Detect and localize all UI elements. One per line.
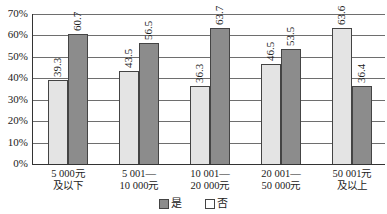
legend-item-no: 否 (205, 197, 228, 210)
bar-no (48, 80, 68, 165)
y-tick-label: 70% (0, 8, 28, 19)
x-category-label: 5 000元及以下 (33, 168, 103, 192)
y-tick-label: 0% (0, 158, 28, 169)
x-category-label: 5 001—10 000元 (104, 168, 174, 192)
bar-yes (352, 86, 372, 165)
y-tick-label: 40% (0, 72, 28, 83)
data-label: 39.3 (52, 58, 63, 77)
bar-yes (68, 34, 88, 165)
bar-no (119, 71, 139, 165)
data-label: 63.6 (336, 5, 347, 24)
data-label: 60.7 (72, 12, 83, 31)
data-label: 53.5 (285, 27, 296, 46)
legend-label-yes: 是 (171, 197, 182, 210)
x-axis-line (32, 164, 385, 165)
bar-no (332, 28, 352, 165)
data-label: 36.3 (194, 64, 205, 83)
data-label: 46.5 (265, 42, 276, 61)
legend-item-yes: 是 (159, 197, 182, 210)
bar-chart: 0%10%20%30%40%50%60%70% 39.343.536.346.5… (0, 0, 387, 214)
legend: 是 否 (0, 197, 387, 212)
y-tick-label: 50% (0, 51, 28, 62)
data-label: 36.4 (356, 64, 367, 83)
bar-no (190, 86, 210, 165)
y-axis-line (32, 14, 33, 165)
y-tick-label: 20% (0, 115, 28, 126)
legend-swatch-yes-icon (159, 199, 169, 209)
legend-swatch-no-icon (205, 199, 215, 209)
bar-yes (281, 49, 301, 165)
y-tick-label: 10% (0, 137, 28, 148)
gridline (32, 14, 385, 15)
data-label: 43.5 (123, 49, 134, 68)
x-category-label: 10 001—20 000元 (175, 168, 245, 192)
bar-no (261, 64, 281, 165)
x-category-label: 50 001元及以上 (317, 168, 387, 192)
legend-label-no: 否 (217, 197, 228, 210)
data-label: 63.7 (214, 5, 225, 24)
y-tick-label: 30% (0, 94, 28, 105)
x-category-label: 20 001—50 000元 (246, 168, 316, 192)
y-tick-label: 60% (0, 29, 28, 40)
data-label: 56.5 (143, 21, 154, 40)
bar-yes (210, 28, 230, 166)
bar-yes (139, 43, 159, 165)
